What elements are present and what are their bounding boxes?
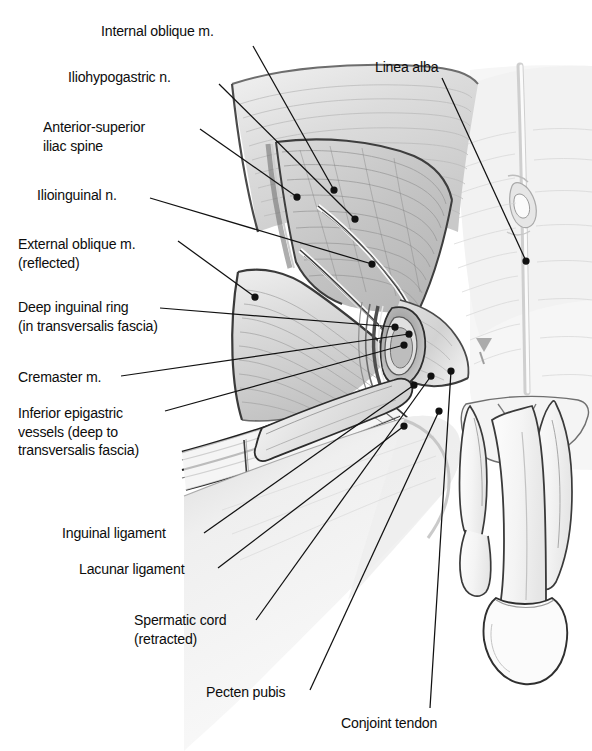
label-iliohypogastric-nerve-line-0: Iliohypogastric n.	[68, 68, 171, 87]
label-anterior-superior-iliac-spine-line-0: Anterior-superior	[43, 118, 145, 137]
anatomy-figure: Internal oblique m.Iliohypogastric n.Ant…	[0, 0, 592, 751]
label-deep-inguinal-ring-line-1: (in transversalis fascia)	[18, 317, 158, 336]
label-internal-oblique-line-0: Internal oblique m.	[101, 22, 214, 41]
label-pecten-pubis-line-0: Pecten pubis	[206, 683, 285, 702]
label-cremaster-muscle: Cremaster m.	[18, 368, 101, 387]
label-lacunar-ligament-line-0: Lacunar ligament	[79, 560, 184, 579]
label-inguinal-ligament: Inguinal ligament	[62, 524, 166, 543]
label-deep-inguinal-ring: Deep inguinal ring(in transversalis fasc…	[18, 298, 158, 335]
label-inferior-epigastric-vessels-line-2: transversalis fascia)	[18, 441, 139, 460]
label-inferior-epigastric-vessels: Inferior epigastricvessels (deep totrans…	[18, 404, 139, 460]
label-ilioinguinal-nerve-line-0: Ilioinguinal n.	[37, 186, 117, 205]
label-inferior-epigastric-vessels-line-0: Inferior epigastric	[18, 404, 139, 423]
label-inferior-epigastric-vessels-line-1: vessels (deep to	[18, 423, 139, 442]
label-external-oblique: External oblique m.(reflected)	[18, 235, 135, 272]
label-spermatic-cord: Spermatic cord(retracted)	[134, 611, 226, 648]
label-iliohypogastric-nerve: Iliohypogastric n.	[68, 68, 171, 87]
label-conjoint-tendon: Conjoint tendon	[341, 714, 437, 733]
label-linea-alba: Linea alba	[375, 58, 438, 77]
label-spermatic-cord-line-1: (retracted)	[134, 630, 226, 649]
label-cremaster-muscle-line-0: Cremaster m.	[18, 368, 101, 387]
label-deep-inguinal-ring-line-0: Deep inguinal ring	[18, 298, 158, 317]
label-external-oblique-line-1: (reflected)	[18, 254, 135, 273]
label-lacunar-ligament: Lacunar ligament	[79, 560, 184, 579]
label-internal-oblique: Internal oblique m.	[101, 22, 214, 41]
label-spermatic-cord-line-0: Spermatic cord	[134, 611, 226, 630]
label-ilioinguinal-nerve: Ilioinguinal n.	[37, 186, 117, 205]
label-external-oblique-line-0: External oblique m.	[18, 235, 135, 254]
label-anterior-superior-iliac-spine: Anterior-superioriliac spine	[43, 118, 145, 155]
label-layer: Internal oblique m.Iliohypogastric n.Ant…	[0, 0, 592, 751]
label-pecten-pubis: Pecten pubis	[206, 683, 285, 702]
label-conjoint-tendon-line-0: Conjoint tendon	[341, 714, 437, 733]
label-anterior-superior-iliac-spine-line-1: iliac spine	[43, 137, 145, 156]
label-linea-alba-line-0: Linea alba	[375, 58, 438, 77]
label-inguinal-ligament-line-0: Inguinal ligament	[62, 524, 166, 543]
